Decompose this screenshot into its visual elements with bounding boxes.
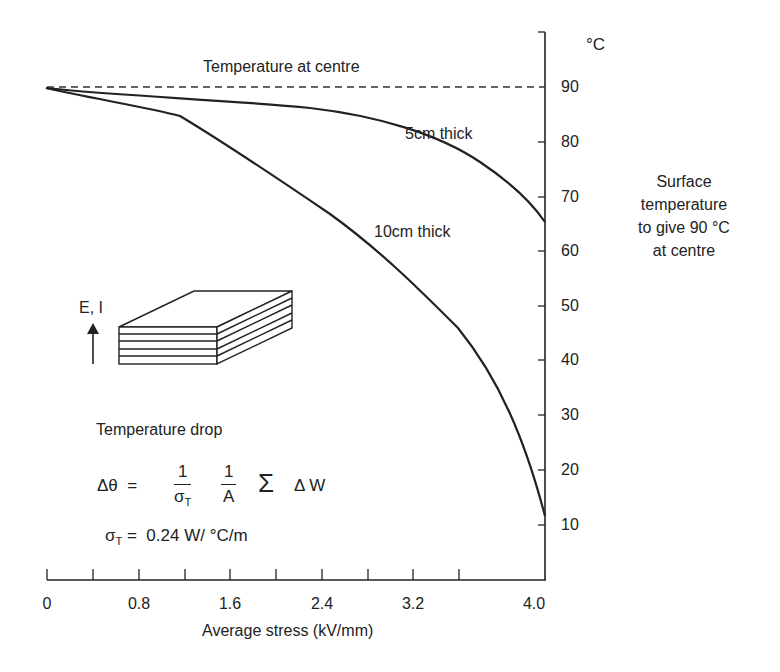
laminate-block-icon [119,291,292,364]
sigma-symbol: σ [105,526,116,545]
series-label-10cm: 10cm thick [374,224,450,240]
y-axis-ticks [538,32,545,525]
curve-5cm-thick [46,88,545,222]
sigma-value: = 0.24 W/ °C/m [122,526,247,545]
y-tick-label: 20 [561,462,579,478]
fraction-numerator: 1 [174,462,191,485]
y-tick-label: 50 [561,298,579,314]
x-tick-label: 3.2 [402,596,424,612]
x-tick-label: 4.0 [523,596,545,612]
x-axis-ticks [47,569,459,580]
y-axis-unit: °C [586,36,605,53]
fraction-numerator: 1 [221,462,236,485]
x-tick-label: 0.8 [128,596,150,612]
subscript: T [185,496,192,508]
formula-tail: Δ W [294,477,325,494]
formula-lhs: Δθ = [97,477,137,494]
y-tick-label: 80 [561,134,579,150]
formula-fraction-area: 1 A [221,462,236,507]
series-label-5cm: 5cm thick [405,126,473,142]
y-tick-label: 70 [561,189,579,205]
sigma-definition: σT = 0.24 W/ °C/m [105,527,248,547]
field-direction-arrow-icon [87,323,99,364]
y-tick-label: 90 [561,79,579,95]
y-axis-title-line: at centre [614,239,754,262]
x-axis-title: Average stress (kV/mm) [202,623,373,639]
chart-canvas [0,0,780,672]
formula-fraction-sigma: 1 σT [174,462,191,508]
fraction-denominator: A [221,485,236,507]
y-axis-title-line: temperature [614,193,754,216]
x-tick-label: 0 [43,596,52,612]
y-axis-title-line: to give 90 °C [614,216,754,239]
x-tick-label: 1.6 [219,596,241,612]
y-axis-title-line: Surface [614,170,754,193]
sigma-symbol: σ [174,487,185,506]
sum-symbol: Σ [258,470,274,496]
inset-field-label: E, I [79,300,103,316]
formula-heading: Temperature drop [96,422,222,438]
reference-line-label: Temperature at centre [203,59,360,75]
x-tick-label: 2.4 [311,596,333,612]
y-tick-label: 10 [561,517,579,533]
y-tick-label: 30 [561,407,579,423]
y-axis-title: Surface temperature to give 90 °C at cen… [614,170,754,262]
y-tick-label: 60 [561,243,579,259]
y-tick-label: 40 [561,352,579,368]
fraction-denominator: σT [174,485,191,508]
curve-10cm-thick [46,88,545,516]
